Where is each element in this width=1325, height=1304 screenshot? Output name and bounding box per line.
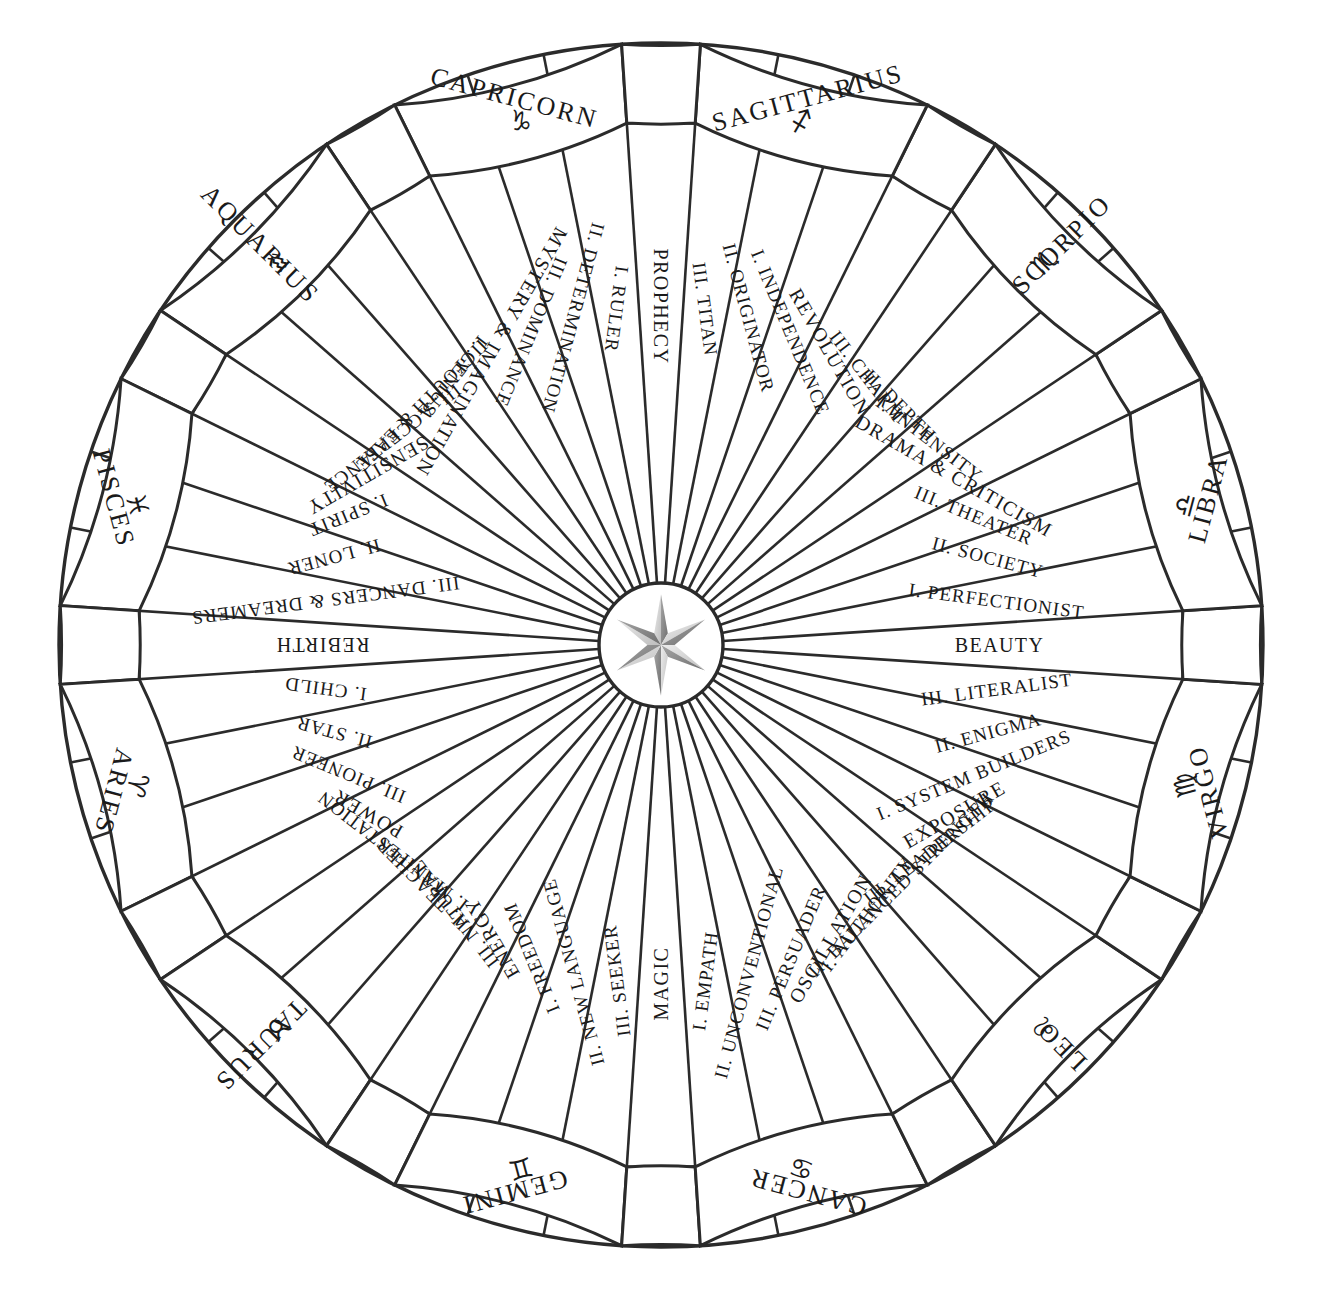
sign-ring-cusp-cell <box>60 606 140 685</box>
sign-ring-cusp-cell <box>1182 606 1262 685</box>
sign-ring-cusp-cell <box>622 44 701 124</box>
cusp-label-prophecy: PROPHECY <box>650 249 672 365</box>
sign-ring-cusp-cell <box>622 1166 701 1246</box>
cusp-label-rebirth: REBIRTH <box>275 634 369 656</box>
cusp-label-beauty: BEAUTY <box>955 634 1045 656</box>
cusp-label-magic: MAGIC <box>650 947 672 1021</box>
zodiac-decan-wheel: I. RULERII. DETERMINATIONIII. DOMINANCEM… <box>0 0 1325 1304</box>
